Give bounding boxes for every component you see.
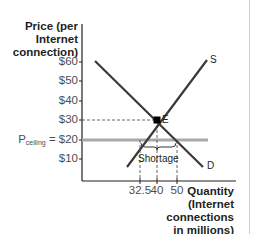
y-axis-label-line: Internet bbox=[13, 33, 78, 46]
equilibrium-point bbox=[154, 117, 161, 124]
ceiling-value: = $20 bbox=[46, 133, 78, 145]
page-edge-rule bbox=[249, 0, 250, 234]
x-axis-label-line: in millions) bbox=[166, 224, 234, 234]
equilibrium-label: E bbox=[162, 114, 169, 125]
shortage-brace bbox=[141, 143, 176, 150]
y-axis-label-line: Price (per bbox=[13, 20, 78, 33]
ceiling-p: P bbox=[18, 133, 26, 145]
y-axis-label: Price (per Internet connection) bbox=[13, 20, 78, 59]
y-tick-label: $10 bbox=[59, 152, 78, 164]
demand-curve bbox=[95, 61, 203, 167]
y-tick-label: $50 bbox=[59, 74, 78, 86]
price-ceiling-chart: Price (per Internet connection) $60 $50 … bbox=[0, 0, 254, 234]
x-axis-label-line: (Internet bbox=[166, 198, 234, 211]
demand-label: D bbox=[207, 160, 214, 171]
supply-label: S bbox=[210, 54, 217, 65]
y-tick-label: $30 bbox=[59, 113, 78, 125]
guide-lines bbox=[82, 120, 177, 181]
y-tick-label: $40 bbox=[59, 94, 78, 106]
price-ceiling-label: Pceiling = $20 bbox=[18, 133, 78, 146]
x-axis-label-line: Quantity bbox=[166, 185, 234, 198]
y-tick-label: $60 bbox=[59, 55, 78, 67]
x-axis-label: Quantity (Internet connections in millio… bbox=[166, 185, 234, 234]
x-axis-label-line: connections bbox=[166, 211, 234, 224]
ceiling-sub: ceiling bbox=[26, 139, 46, 146]
shortage-label: Shortage bbox=[138, 153, 179, 164]
